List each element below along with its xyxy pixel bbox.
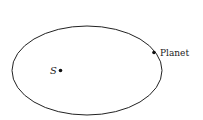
planet-label: Planet	[160, 48, 189, 58]
orbit-diagram: S Planet	[0, 0, 203, 120]
focus-point	[59, 69, 63, 73]
planet-point	[152, 51, 156, 55]
focus-label: S	[50, 65, 57, 76]
orbit-ellipse	[12, 26, 162, 115]
